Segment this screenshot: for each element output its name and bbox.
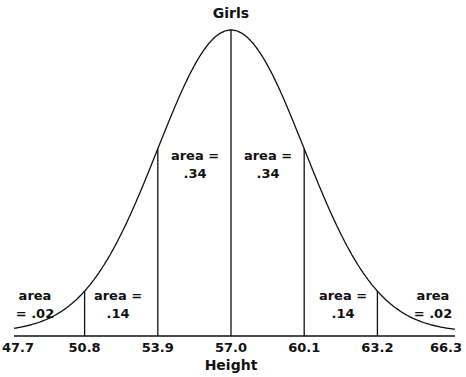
x-tick-label: 53.9 [142,340,174,355]
area-label: .34 [256,166,279,181]
area-label: area [19,288,52,303]
x-tick-label: 60.1 [288,340,320,355]
x-tick-label: 63.2 [361,340,393,355]
area-label: area = [319,288,367,303]
area-label: area = [94,288,142,303]
chart-canvas: Girls 47.750.853.957.060.163.266.3 area=… [0,0,466,377]
x-tick-label: 50.8 [69,340,101,355]
normal-curve-chart: Girls 47.750.853.957.060.163.266.3 area=… [0,0,466,377]
x-tick-label: 57.0 [215,340,247,355]
bell-curve [14,30,455,329]
area-label: area [417,288,450,303]
area-label: = .02 [16,306,54,321]
area-label: .14 [106,306,129,321]
x-axis-label: Height [205,357,258,373]
x-tick-label: 66.3 [430,340,462,355]
x-tick-labels: 47.750.853.957.060.163.266.3 [2,340,462,355]
area-label: .34 [183,166,206,181]
area-label: area = [171,148,219,163]
area-label: = .02 [414,306,452,321]
area-label: area = [244,148,292,163]
x-tick-label: 47.7 [2,340,34,355]
area-label: .14 [331,306,354,321]
chart-title: Girls [213,5,249,21]
